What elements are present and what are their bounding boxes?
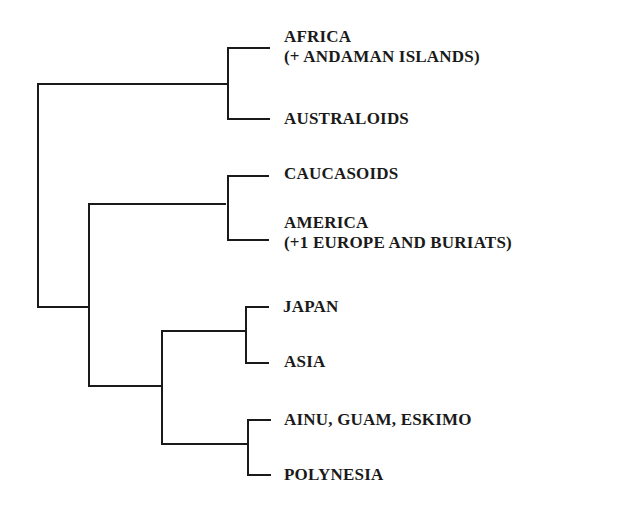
- leaf-caucasoids-label: CAUCASOIDS: [284, 164, 398, 184]
- root-branch: [38, 84, 227, 307]
- japan-asia-bracket: [246, 307, 268, 363]
- leaf-africa-line1: AFRICA: [284, 27, 480, 47]
- leaf-australoids: AUSTRALOIDS: [284, 109, 409, 129]
- leaf-ainu-guam-eskimo: AINU, GUAM, ESKIMO: [284, 410, 472, 430]
- leaf-japan-label: JAPAN: [283, 297, 338, 317]
- leaf-caucasoids: CAUCASOIDS: [284, 164, 398, 184]
- leaf-australoids-label: AUSTRALOIDS: [284, 109, 409, 129]
- leaf-africa: AFRICA (+ ANDAMAN ISLANDS): [284, 27, 480, 67]
- node-2-branch: [89, 204, 225, 386]
- dendrogram: [0, 0, 640, 512]
- node-3-branch: [162, 331, 246, 444]
- leaf-asia: ASIA: [284, 352, 325, 372]
- leaf-polynesia-label: POLYNESIA: [284, 465, 383, 485]
- caucasoids-america-bracket: [228, 176, 268, 240]
- leaf-japan: JAPAN: [283, 297, 338, 317]
- ainu-polynesia-bracket: [248, 420, 270, 475]
- leaf-america: AMERICA (+1 EUROPE AND BURIATS): [284, 213, 512, 253]
- leaf-polynesia: POLYNESIA: [284, 465, 383, 485]
- leaf-africa-line2: (+ ANDAMAN ISLANDS): [284, 47, 480, 67]
- leaf-america-line2: (+1 EUROPE AND BURIATS): [284, 233, 512, 253]
- leaf-america-line1: AMERICA: [284, 213, 512, 233]
- leaf-asia-label: ASIA: [284, 352, 325, 372]
- africa-australoids-bracket: [228, 48, 269, 119]
- leaf-ainu-label: AINU, GUAM, ESKIMO: [284, 410, 472, 430]
